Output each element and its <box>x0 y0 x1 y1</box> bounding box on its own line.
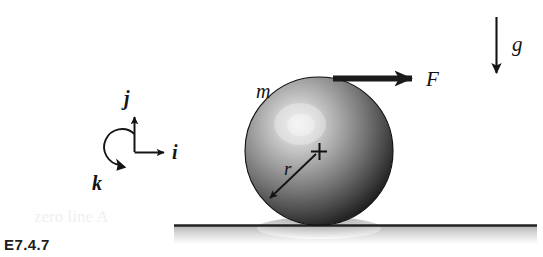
mass-label: m <box>256 80 270 102</box>
radius-label: r <box>284 158 292 179</box>
ground-surface <box>174 217 537 244</box>
axis-k-arc-arrow <box>104 129 134 165</box>
axis-label-k: k <box>92 172 102 194</box>
coordinate-triad <box>104 117 164 165</box>
force-label: F <box>425 67 439 91</box>
figure-id-label: E7.4.7 <box>4 236 50 253</box>
axis-label-j: j <box>121 87 130 110</box>
physics-figure: zero line A m r F <box>0 0 543 257</box>
ghost-bleed-text: zero line A <box>34 207 109 226</box>
axis-label-i: i <box>172 141 178 163</box>
gravity-label: g <box>512 32 523 56</box>
sphere-highlight-core <box>287 114 315 136</box>
